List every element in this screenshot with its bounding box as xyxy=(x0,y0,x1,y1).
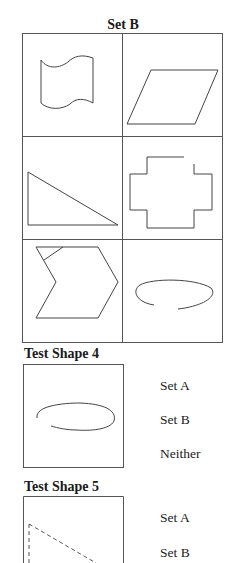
test-shape-5-option-set-b[interactable]: Set B xyxy=(160,545,190,561)
test-shape-4-ellipse-icon xyxy=(37,403,115,430)
test-shape-5-box xyxy=(24,497,124,563)
test-shape-4-option-neither[interactable]: Neither xyxy=(160,446,200,462)
parallelogram-icon xyxy=(127,70,218,124)
test-shape-4-label: Test Shape 4 xyxy=(24,346,99,362)
open-cross-icon xyxy=(130,157,212,228)
right-triangle-icon xyxy=(28,172,118,225)
test-shape-4-option-set-b[interactable]: Set B xyxy=(160,412,190,428)
test-shape-4-option-set-a[interactable]: Set A xyxy=(160,378,190,394)
test-shape-5-option-set-a[interactable]: Set A xyxy=(160,510,190,526)
open-ellipse-icon xyxy=(136,280,213,309)
wavy-flag-icon xyxy=(41,56,93,108)
test-shape-5-dashed-triangle-icon xyxy=(29,524,96,563)
test-shape-4-box xyxy=(24,365,124,468)
test-shape-5-label: Test Shape 5 xyxy=(24,479,99,495)
